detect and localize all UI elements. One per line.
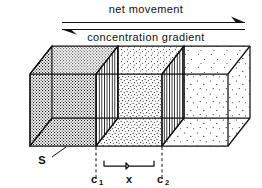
area-label: S — [38, 154, 45, 166]
measurement-group: c 1 x c 2 — [91, 147, 169, 187]
net-movement-annotation: net movement — [62, 3, 245, 23]
net-movement-label: net movement — [109, 3, 184, 15]
concentration-gradient-arrowhead — [62, 30, 77, 35]
box-top-face — [30, 46, 250, 74]
net-movement-arrowhead — [231, 17, 245, 23]
area-label-group: S — [38, 147, 66, 166]
distance-label-x: x — [126, 173, 133, 185]
plane-label-c2-subscript: 2 — [165, 178, 169, 187]
concentration-gradient-label: concentration gradient — [87, 31, 205, 43]
plane-label-c1: c — [91, 173, 97, 185]
figure-canvas: net movement concentration gradient — [0, 0, 262, 188]
area-leader-line — [52, 147, 66, 157]
diffusion-figure: net movement concentration gradient — [0, 0, 262, 188]
distance-brace — [104, 161, 154, 169]
plane-label-c2: c — [157, 173, 163, 185]
plane-label-c1-subscript: 1 — [99, 178, 103, 187]
box-front-face — [30, 74, 228, 146]
concentration-gradient-annotation: concentration gradient — [62, 30, 245, 44]
